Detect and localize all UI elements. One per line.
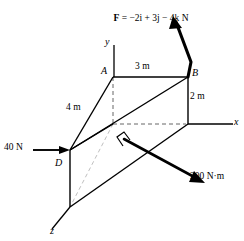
moment-200-arrow-shaft (124, 139, 196, 178)
edge-a-d-slant (70, 77, 113, 150)
dimension-label-top: 3 m (135, 62, 150, 72)
moment-200-label: 200 N·m (190, 172, 224, 182)
force-vector-label: F = −2i + 3j − 4k N (104, 4, 189, 33)
x-axis-label: x (234, 117, 238, 127)
y-axis-label: y (105, 37, 109, 47)
force-vector-expression: = −2i + 3j − 4k N (119, 13, 188, 23)
force-40n-label: 40 N (4, 143, 23, 153)
statics-diagram-figure: F = −2i + 3j − 4k N y x z A B D 3 m 2 m … (0, 0, 244, 241)
dimension-label-slant: 4 m (66, 103, 81, 113)
diagram-canvas (0, 0, 244, 241)
z-axis-label: z (50, 226, 54, 236)
z-axis-line (52, 207, 70, 229)
vertex-label-d: D (55, 158, 62, 168)
dimension-label-right: 2 m (190, 92, 205, 102)
vertex-label-a: A (101, 66, 107, 76)
force-40n-arrow-head (59, 146, 70, 154)
vertex-label-b: B (192, 68, 198, 78)
